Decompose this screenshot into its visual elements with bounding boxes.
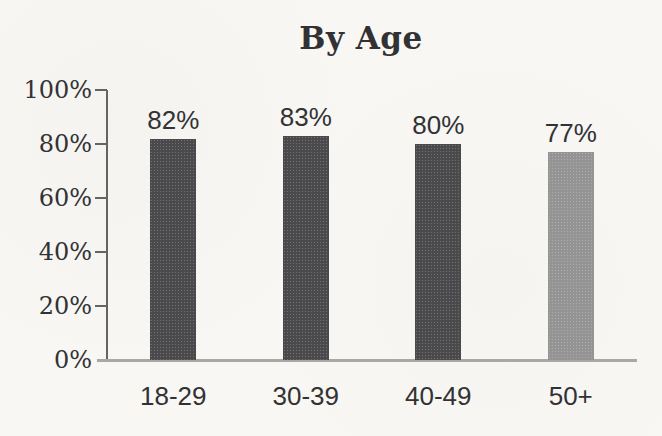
x-category-label-18-29: 18-29 xyxy=(118,381,228,411)
y-tick-label-80: 80% xyxy=(0,129,92,159)
y-tick-mark-80 xyxy=(95,143,107,145)
y-tick-label-0: 0% xyxy=(0,345,92,375)
y-tick-label-20: 20% xyxy=(0,291,92,321)
bar-18-29 xyxy=(150,139,196,360)
y-axis-line xyxy=(106,90,108,360)
x-category-label-40-49: 40-49 xyxy=(383,381,493,411)
y-tick-mark-20 xyxy=(95,305,107,307)
bar-30-39 xyxy=(283,136,329,360)
value-label-40-49: 80% xyxy=(393,111,483,139)
x-category-label-30-39: 30-39 xyxy=(251,381,361,411)
bar-50+ xyxy=(548,152,594,360)
bar-40-49 xyxy=(415,144,461,360)
scanned-chart-page: By Age 0%20%40%60%80%100% 82%18-2983%30-… xyxy=(0,0,662,436)
chart-title: By Age xyxy=(60,20,662,56)
y-tick-label-60: 60% xyxy=(0,183,92,213)
value-label-30-39: 83% xyxy=(261,103,351,131)
x-category-label-50+: 50+ xyxy=(516,381,626,411)
value-label-18-29: 82% xyxy=(128,106,218,134)
y-tick-mark-40 xyxy=(95,251,107,253)
y-tick-label-40: 40% xyxy=(0,237,92,267)
y-tick-mark-60 xyxy=(95,197,107,199)
y-tick-label-100: 100% xyxy=(0,75,92,105)
y-tick-mark-100 xyxy=(95,89,107,91)
value-label-50+: 77% xyxy=(526,119,616,147)
